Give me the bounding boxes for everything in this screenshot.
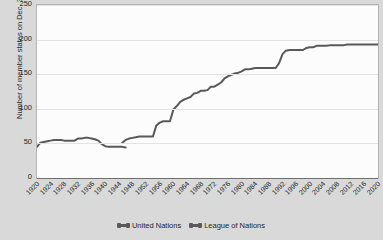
chart-legend: United Nations League of Nations [0,221,383,230]
x-axis-line [37,178,378,179]
plot-inner [37,5,378,178]
x-axis-tick-label: 2004 [311,180,327,196]
x-axis-tick-label: 1960 [161,180,177,196]
gridline [37,40,378,41]
gridline [37,74,378,75]
legend-item-united-nations[interactable]: United Nations [118,221,181,230]
x-axis-tick-label: 1920 [25,180,41,196]
plot-area [36,4,379,179]
x-axis-tick-label: 1968 [188,180,204,196]
x-axis-tick-label: 2020 [366,180,382,196]
x-axis-tick-label: 1932 [65,180,81,196]
x-axis-tick-labels: 1920192419281932193619401944194819521956… [36,180,379,212]
y-axis-tick-label: 150 [0,69,32,77]
y-axis-tick-label: 0 [0,173,32,181]
x-axis-tick-label: 1980 [229,180,245,196]
gridline [37,109,378,110]
legend-marker-icon [190,224,201,227]
y-axis-tick-label: 250 [0,0,32,8]
series-lines [37,5,378,178]
y-axis-tick-label: 50 [0,138,32,146]
x-axis-tick-label: 1988 [256,180,272,196]
x-axis-tick-label: 2012 [338,180,354,196]
x-axis-tick-label: 1924 [38,180,54,196]
x-axis-tick-label: 1948 [120,180,136,196]
y-axis-tick-label: 100 [0,104,32,112]
legend-label: United Nations [132,221,181,230]
x-axis-tick-label: 1996 [284,180,300,196]
gridline [37,143,378,144]
chart-container: Number of member states on Dec. 31 05010… [0,0,383,240]
x-axis-tick-label: 2016 [352,180,368,196]
gridline [37,5,378,6]
x-axis-tick-label: 1964 [175,180,191,196]
x-axis-tick-label: 1992 [270,180,286,196]
x-axis-tick-label: 2008 [325,180,341,196]
x-axis-tick-label: 1928 [52,180,68,196]
x-axis-tick-label: 1976 [216,180,232,196]
x-axis-tick-label: 1936 [79,180,95,196]
x-axis-tick-label: 1984 [243,180,259,196]
legend-marker-icon [118,224,129,227]
y-axis-tick-label: 200 [0,35,32,43]
x-axis-tick-label: 1956 [147,180,163,196]
legend-label: League of Nations [204,221,265,230]
legend-item-league-of-nations[interactable]: League of Nations [190,221,265,230]
x-axis-tick-label: 1972 [202,180,218,196]
x-axis-tick-label: 1940 [93,180,109,196]
series-line-united-nations [122,44,378,142]
x-axis-tick-label: 2000 [297,180,313,196]
x-axis-tick-label: 1952 [134,180,150,196]
x-axis-tick-label: 1944 [106,180,122,196]
